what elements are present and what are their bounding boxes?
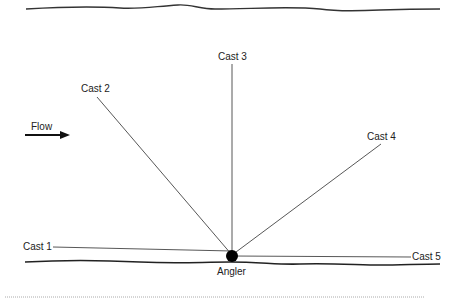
cast-2-label: Cast 2: [81, 83, 110, 95]
cast-5-label: Cast 5: [412, 251, 441, 263]
angler-label: Angler: [217, 266, 246, 278]
cast-2-line: [97, 97, 232, 255]
cast-5-line: [232, 256, 411, 257]
fishing-cast-diagram: [0, 0, 464, 301]
flow-label: Flow: [31, 121, 52, 133]
cast-1-label: Cast 1: [23, 241, 52, 253]
cast-4-label: Cast 4: [367, 131, 396, 143]
cast-4-line: [232, 144, 381, 255]
cast-3-label: Cast 3: [218, 51, 247, 63]
cast-1-line: [53, 247, 232, 251]
angler-marker: [226, 250, 238, 262]
far-riverbank: [26, 5, 440, 11]
